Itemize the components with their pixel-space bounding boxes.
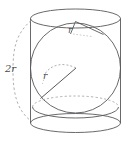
label-radius-sphere: r xyxy=(43,72,47,81)
sphere-radius-group xyxy=(41,65,77,99)
geometry-figure-sphere-in-cylinder: r r 2r xyxy=(0,0,136,146)
label-height-2r: 2r xyxy=(5,64,16,74)
cylinder-top-ellipse xyxy=(31,9,121,28)
figure-canvas xyxy=(0,0,136,146)
top-radius-leader xyxy=(73,34,92,37)
cylinder-bottom-ellipse xyxy=(31,114,121,133)
label-radius-top: r xyxy=(68,26,72,35)
